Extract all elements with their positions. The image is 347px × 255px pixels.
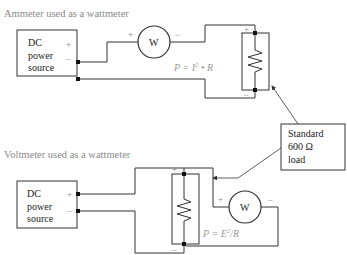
callout-line-2: 600 Ω: [288, 141, 313, 152]
top-source-plus: +: [66, 39, 71, 49]
bottom-title: Voltmeter used as a wattmeter: [4, 149, 131, 160]
top-load-node-minus: [253, 88, 257, 92]
bottom-source-plus: +: [67, 189, 72, 199]
bottom-terminal-plus: [76, 192, 80, 196]
top-wire-minus-to-load: [80, 79, 255, 98]
top-meter-minus: –: [174, 29, 180, 39]
callout-leader-bottom: [238, 148, 281, 178]
bottom-load-node-plus: [182, 172, 186, 176]
top-meter-label: W: [149, 37, 159, 48]
top-formula: P = I2 • R: [173, 61, 213, 73]
bottom-load-node-minus: [182, 242, 186, 246]
callout-line-3: load: [288, 154, 305, 165]
top-dc-source: DC power source + –: [17, 30, 80, 81]
bottom-source-line-1: DC: [27, 188, 41, 199]
bottom-dc-source: DC power source + –: [17, 181, 80, 228]
bottom-terminal-minus: [76, 209, 80, 213]
top-wire-plus-to-meter: [80, 42, 138, 62]
bottom-source-line-2: power: [27, 201, 53, 212]
bottom-wire-plus-to-load: [80, 168, 184, 194]
top-meter-plus: +: [128, 29, 133, 39]
callout-line-1: Standard: [288, 128, 324, 139]
standard-load-callout: Standard 600 Ω load: [238, 86, 345, 178]
top-source-line-1: DC: [28, 37, 42, 48]
top-source-line-2: power: [28, 50, 54, 61]
top-title: Ammeter used as a wattmeter: [4, 8, 129, 19]
top-terminal-minus: [76, 77, 80, 81]
bottom-load-plus: +: [172, 164, 177, 174]
bottom-wire-minus-to-load: [80, 211, 184, 253]
top-load-node-plus: [253, 31, 257, 35]
top-load-plus: +: [244, 24, 249, 34]
callout-arrow-top: [272, 86, 298, 124]
bottom-meter-plus: +: [218, 194, 223, 204]
top-source-line-3: source: [28, 62, 55, 73]
top-terminal-plus: [76, 60, 80, 64]
bottom-load: + –: [171, 164, 199, 254]
bottom-source-minus: –: [66, 205, 72, 215]
bottom-formula: P = E2/R: [202, 227, 239, 239]
bottom-meter-minus: –: [267, 194, 273, 204]
bottom-meter-label: W: [240, 202, 250, 213]
top-load: + –: [242, 24, 269, 99]
bottom-load-box: [172, 174, 199, 244]
wattmeter-diagram: Ammeter used as a wattmeter DC power sou…: [0, 0, 347, 255]
top-source-minus: –: [65, 53, 71, 63]
bottom-source-line-3: source: [27, 213, 54, 224]
top-load-minus: –: [243, 89, 249, 99]
bottom-load-minus: –: [171, 244, 177, 254]
